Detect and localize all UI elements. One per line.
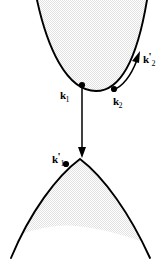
label-k2: k2 <box>113 92 123 108</box>
label-k2-prime: k'2 <box>143 50 156 66</box>
state-marker-k1 <box>79 82 85 88</box>
band-diagram-figure: k1 k2 k'2 k'1 <box>0 0 161 265</box>
vertical-arrow-head <box>78 147 86 158</box>
label-k1-prime: k'1 <box>52 150 65 166</box>
label-k2-subscript: 2 <box>118 101 122 110</box>
band-diagram-svg <box>0 0 161 265</box>
label-k1-prime-subscript: 1 <box>60 159 64 168</box>
vertical-transition-arrow <box>78 88 86 158</box>
label-k1: k1 <box>60 86 70 102</box>
label-k1-subscript: 1 <box>65 95 69 104</box>
label-k2-prime-subscript: 2 <box>151 59 155 68</box>
